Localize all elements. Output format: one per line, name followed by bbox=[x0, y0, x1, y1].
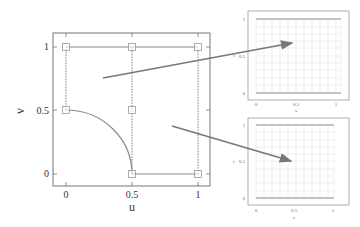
top-x-tick-1: 1 bbox=[335, 102, 338, 107]
bottom-x-tick-1: 1 bbox=[332, 208, 335, 213]
y-tick-1: 1 bbox=[44, 41, 49, 52]
param-plot-top: 1 0.5 0 0 0.5 1 s t bbox=[233, 11, 349, 113]
main-plot: 0 0.5 1 0 0.5 1 u v bbox=[13, 33, 210, 214]
x-tick-0.5: 0.5 bbox=[126, 189, 139, 200]
top-y-tick-0.5: 0.5 bbox=[239, 54, 246, 59]
bottom-x-tick-0.5: 0.5 bbox=[291, 208, 298, 213]
bottom-x-title: s bbox=[293, 215, 295, 220]
bottom-x-tick-0: 0 bbox=[255, 208, 258, 213]
bottom-y-title: t bbox=[233, 159, 235, 164]
top-y-tick-1: 1 bbox=[243, 17, 246, 22]
bottom-y-tick-0: 0 bbox=[243, 196, 246, 201]
y-tick-0.5: 0.5 bbox=[37, 105, 50, 116]
top-x-title: s bbox=[295, 108, 297, 113]
x-tick-1: 1 bbox=[196, 189, 201, 200]
top-x-tick-0: 0 bbox=[255, 102, 258, 107]
y-axis-title: v bbox=[13, 108, 27, 114]
param-plot-bottom: 1 0.5 0 0 0.5 1 s t bbox=[233, 118, 349, 220]
y-tick-0: 0 bbox=[44, 168, 49, 179]
bottom-y-tick-1: 1 bbox=[243, 123, 246, 128]
x-tick-0: 0 bbox=[64, 189, 69, 200]
bottom-y-tick-0.5: 0.5 bbox=[239, 159, 246, 164]
x-axis-title: u bbox=[129, 200, 135, 214]
top-x-tick-0.5: 0.5 bbox=[293, 102, 300, 107]
top-y-tick-0: 0 bbox=[243, 91, 246, 96]
